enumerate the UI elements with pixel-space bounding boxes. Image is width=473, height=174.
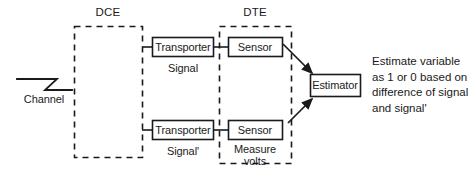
channel-zigzag-icon [17, 79, 72, 90]
estimator-note-line-3: difference of signal [372, 85, 468, 101]
sensor-bottom-label: Sensor [238, 124, 272, 137]
channel-label: Channel [24, 93, 64, 106]
estimator-note-line-4: and signal' [372, 101, 468, 117]
signal-bottom-annotation: Signal' [167, 145, 199, 158]
estimator-note-line-1: Estimate variable [372, 54, 468, 70]
sensor-top-label: Sensor [238, 41, 272, 54]
signal-top-annotation: Signal [168, 62, 198, 75]
measure-volts-line2: volts [244, 155, 266, 168]
transporter-bottom-label: Transporter [155, 124, 210, 137]
dte-group-label: DTE [243, 6, 267, 19]
estimator-note: Estimate variable as 1 or 0 based on dif… [372, 54, 468, 116]
dce-group-boundary [75, 27, 143, 158]
transporter-top-label: Transporter [155, 41, 210, 54]
estimator-label: Estimator [312, 79, 358, 92]
diagram-canvas: DCE DTE Channel Transporter Sensor Trans… [0, 0, 473, 174]
arrow-sensor-top-to-estimator [283, 44, 312, 73]
dce-group-label: DCE [96, 6, 121, 19]
estimator-note-line-2: as 1 or 0 based on [372, 70, 468, 86]
